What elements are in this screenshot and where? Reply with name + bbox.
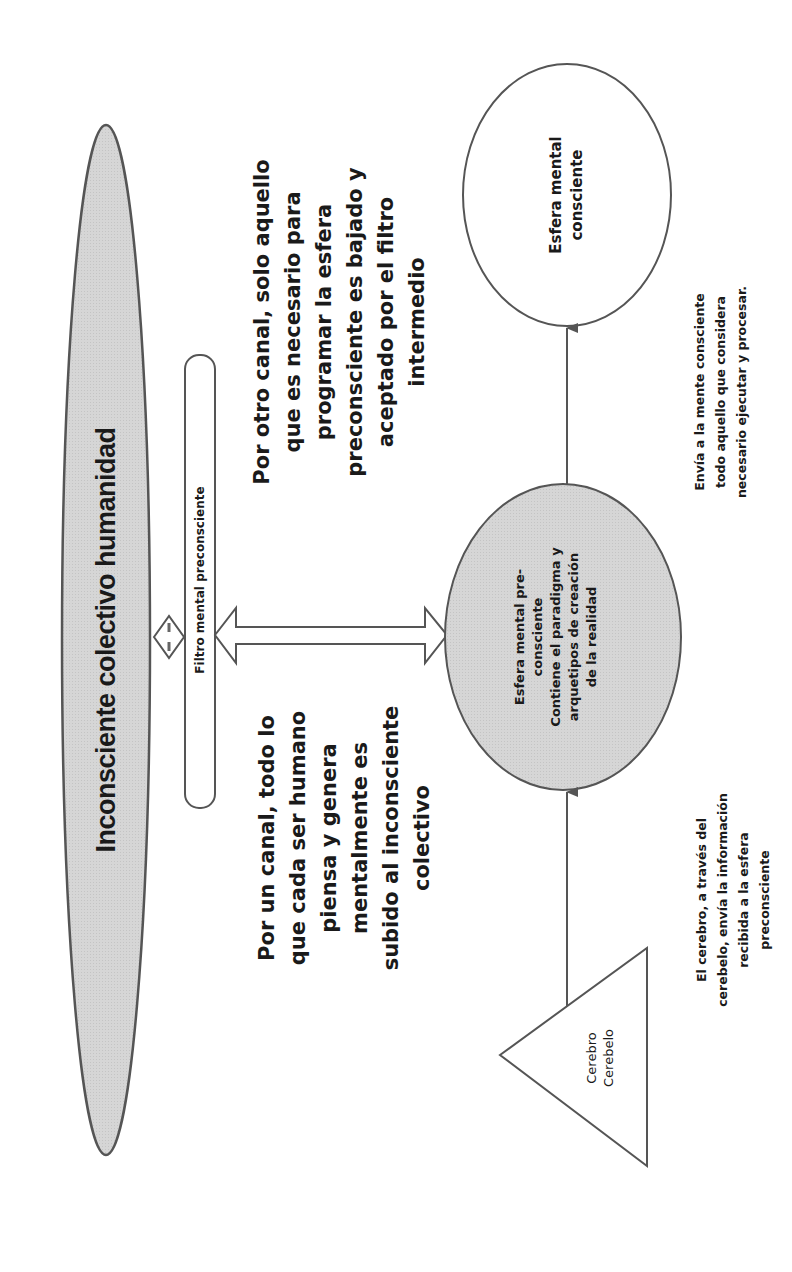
from-brain-text: El cerebro, a través del cerebelo, envía…	[691, 793, 775, 1007]
down-channel-text: Por otro canal, solo aquello que es nece…	[247, 159, 433, 484]
preconscious-label: Esfera mental pre- consciente Contiene e…	[511, 547, 601, 726]
brain-label: Cerebro Cerebelo	[583, 1029, 617, 1087]
collective-label: Inconsciente colectivo humanidad	[91, 427, 122, 852]
brain-triangle	[500, 948, 647, 1166]
conscious-label: Esfera mental consciente	[546, 136, 588, 254]
block-double-arrow-icon	[215, 608, 447, 663]
diagram-canvas: Inconsciente colectivo humanidad Filtro …	[0, 0, 792, 1272]
filter-label: Filtro mental preconsciente	[193, 486, 207, 673]
to-conscious-text: Envía a la mente consciente todo aquello…	[689, 286, 752, 498]
up-channel-text: Por un canal, todo lo que cada ser human…	[252, 706, 438, 971]
small-double-arrow-icon	[154, 616, 184, 658]
